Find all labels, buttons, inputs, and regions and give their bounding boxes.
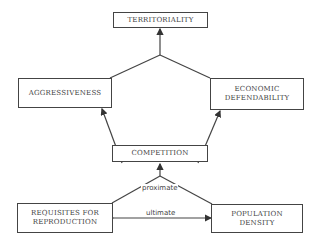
line-economic-junction xyxy=(160,55,210,78)
node-label-line1: REQUISITES FOR xyxy=(31,209,99,218)
node-territoriality: TERRITORIALITY xyxy=(113,12,208,28)
node-aggressiveness: AGGRESSIVENESS xyxy=(18,78,112,108)
node-label: AGGRESSIVENESS xyxy=(29,89,102,98)
node-label: COMPETITION xyxy=(131,149,188,158)
line-aggressiveness-junction xyxy=(110,55,160,78)
node-competition: COMPETITION xyxy=(112,145,208,162)
node-label-line2: REPRODUCTION xyxy=(33,218,98,227)
node-label-line1: POPULATION xyxy=(231,210,283,219)
node-label-line2: DENSITY xyxy=(239,219,274,228)
node-economic-defendability: ECONOMIC DEFENDABILITY xyxy=(210,78,304,110)
node-requisites-for-reproduction: REQUISITES FOR REPRODUCTION xyxy=(17,203,113,233)
edge-label-proximate: proximate xyxy=(141,184,178,192)
node-label-line2: DEFENDABILITY xyxy=(225,94,290,103)
node-label: TERRITORIALITY xyxy=(127,16,193,25)
node-label-line1: ECONOMIC xyxy=(235,85,280,94)
node-population-density: POPULATION DENSITY xyxy=(211,204,303,233)
edge-label-ultimate: ultimate xyxy=(145,209,176,217)
